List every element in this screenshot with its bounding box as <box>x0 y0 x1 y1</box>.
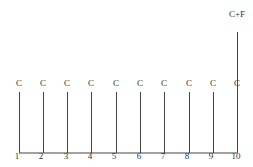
period-label: 9 <box>209 151 214 161</box>
flow-label: C <box>113 78 119 88</box>
final-flow-label: C+F <box>229 9 245 19</box>
period-label: 3 <box>64 151 69 161</box>
period-label: 1 <box>15 151 20 161</box>
period-label: 4 <box>88 151 93 161</box>
period-label: 10 <box>232 151 242 161</box>
period-label: 6 <box>137 151 142 161</box>
period-label: 7 <box>161 151 166 161</box>
flow-label: C <box>40 78 46 88</box>
flow-labels: C C C C C C C C C C C+F <box>16 9 245 88</box>
cash-flow-diagram: C C C C C C C C C C C+F 1 2 3 4 5 6 7 8 … <box>0 0 253 167</box>
flow-label: C <box>161 78 167 88</box>
flow-label: C <box>137 78 143 88</box>
flow-label: C <box>64 78 70 88</box>
flow-label: C <box>88 78 94 88</box>
flow-label: C <box>186 78 192 88</box>
period-label: 8 <box>185 151 190 161</box>
flow-label: C <box>210 78 216 88</box>
flow-label: C <box>234 78 240 88</box>
period-label: 5 <box>112 151 117 161</box>
coupon-bars <box>20 92 214 153</box>
period-label: 2 <box>39 151 44 161</box>
flow-label: C <box>16 78 22 88</box>
